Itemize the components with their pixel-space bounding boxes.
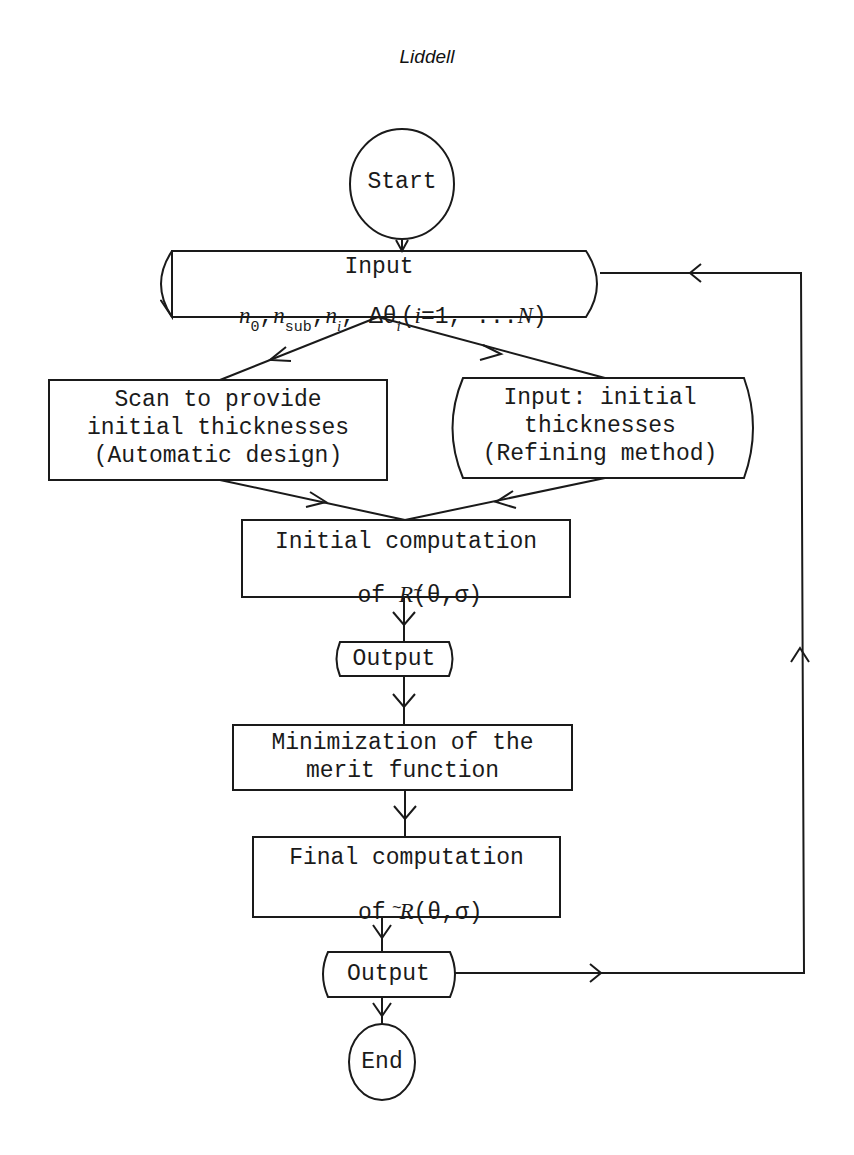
scan-box-line: Scan to provide bbox=[49, 388, 387, 413]
end-label: End bbox=[349, 1050, 415, 1075]
minimization-line: Minimization of the bbox=[233, 731, 572, 756]
initial-computation-line2: of R(θ,σ) bbox=[242, 557, 570, 609]
initial-computation-line1: Initial computation bbox=[242, 530, 570, 555]
input-title: Input bbox=[158, 255, 600, 280]
scan-box-line: initial thicknesses bbox=[49, 416, 387, 441]
final-computation-line1: Final computation bbox=[253, 846, 560, 871]
final-computation-line2: of R(θ,σ) bbox=[253, 874, 560, 926]
input-initial-line: thicknesses bbox=[448, 414, 752, 439]
input-params: n0,nsub,ni, Δθi(i=1, ...N) bbox=[158, 278, 600, 332]
minimization-line: merit function bbox=[233, 759, 572, 784]
theta-vector-tilde: ~ bbox=[413, 580, 423, 605]
output2-label: Output bbox=[322, 962, 455, 987]
scan-box-line: (Automatic design) bbox=[49, 444, 387, 469]
theta-vector-tilde: ~ bbox=[392, 897, 402, 922]
start-label: Start bbox=[350, 170, 454, 195]
input-initial-line: Input: initial bbox=[448, 386, 752, 411]
output1-label: Output bbox=[335, 647, 453, 672]
input-initial-line: (Refining method) bbox=[448, 442, 752, 467]
